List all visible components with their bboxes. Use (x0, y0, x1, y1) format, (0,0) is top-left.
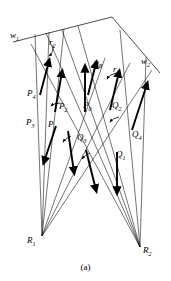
figure-caption: (a) (0, 262, 171, 272)
label-R2: R2 (143, 246, 152, 257)
figure-container: w1 w2 r2 r1 n0 P4 P2 P0 P3 P1 Q3 Q2 Q4 Q… (0, 0, 171, 281)
ray-R1-a (35, 34, 42, 236)
label-n0: n0 (94, 58, 102, 69)
label-R1: R1 (27, 236, 36, 247)
label-w1: w1 (10, 31, 19, 42)
label-Q1: Q1 (116, 150, 126, 161)
label-Q2: Q2 (112, 101, 122, 112)
label-P0: P0 (83, 101, 92, 112)
ray-R2-d (78, 26, 140, 247)
label-Q4: Q4 (132, 130, 142, 141)
label-P1: P1 (48, 120, 57, 131)
ray-R2-b (46, 33, 140, 247)
wavefront-line-w1 (13, 17, 112, 42)
pointer-Q2 (110, 117, 119, 122)
label-P4: P4 (27, 89, 36, 100)
label-w2: w2 (141, 57, 150, 68)
ray-R2-f (140, 57, 146, 247)
label-r1: r1 (113, 65, 120, 76)
label-r2: r2 (49, 38, 56, 49)
arrow-Q4-normal (132, 84, 147, 130)
label-P2: P2 (59, 102, 68, 113)
label-Q3: Q3 (77, 133, 87, 144)
label-P3: P3 (26, 118, 35, 129)
